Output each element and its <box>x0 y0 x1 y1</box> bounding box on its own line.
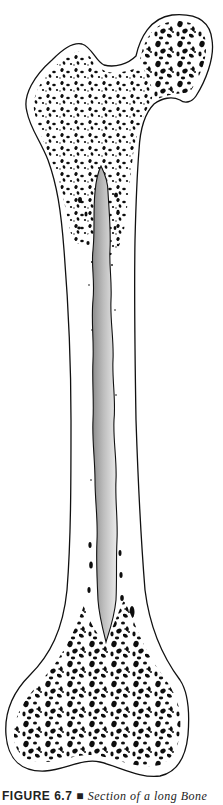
caption-text: Section of a long Bone <box>88 789 208 803</box>
figure-caption: FIGURE 6.7 ■ Section of a long Bone <box>2 789 222 805</box>
figure-label: FIGURE 6.7 <box>2 789 72 803</box>
caption-separator: ■ <box>76 789 84 803</box>
